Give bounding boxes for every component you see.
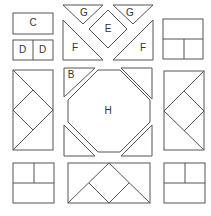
svg-text:B: B bbox=[68, 69, 75, 80]
svg-text:F: F bbox=[72, 42, 78, 53]
piece-c: C bbox=[13, 13, 53, 34]
piece-e: E bbox=[89, 10, 127, 48]
svg-text:H: H bbox=[104, 105, 111, 116]
piece-d-pair: D D bbox=[13, 40, 53, 60]
piece-block-bottom-left bbox=[13, 163, 54, 203]
svg-text:E: E bbox=[105, 23, 112, 34]
svg-text:C: C bbox=[29, 17, 36, 28]
piece-block-bottom-right bbox=[164, 163, 205, 203]
piece-side-left bbox=[13, 70, 53, 150]
quilt-diagram: C D D G G E F F bbox=[0, 0, 211, 216]
svg-text:F: F bbox=[140, 42, 146, 53]
piece-block-top-right bbox=[163, 19, 203, 59]
svg-text:D: D bbox=[39, 44, 46, 55]
piece-bottom-center bbox=[68, 163, 150, 203]
svg-text:G: G bbox=[126, 7, 134, 18]
svg-text:D: D bbox=[19, 44, 26, 55]
svg-text:G: G bbox=[80, 7, 88, 18]
piece-side-right bbox=[164, 71, 204, 150]
